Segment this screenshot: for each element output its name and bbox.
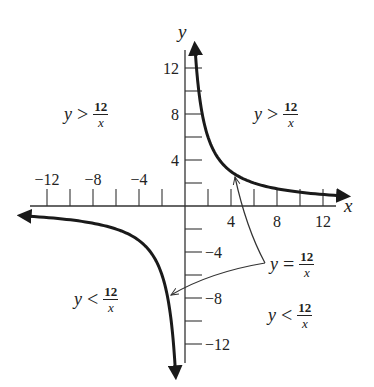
denominator: x (98, 115, 104, 129)
y-tick-label: −12 (205, 336, 230, 353)
lhs: y (254, 104, 262, 125)
curve-equation-label: y = 12x (270, 250, 314, 279)
fraction: 12x (283, 100, 298, 129)
y-tick-label: 4 (171, 152, 179, 169)
denominator: x (288, 115, 294, 129)
relation: < (87, 288, 98, 311)
fraction: 12x (93, 100, 108, 129)
x-axis-label: x (343, 195, 353, 216)
annotation-lower-right: y < 12x (268, 301, 312, 330)
numerator: 12 (93, 100, 108, 115)
y-tick-label: 8 (171, 106, 179, 123)
pointer-to-upper-branch (235, 177, 265, 263)
relation: > (267, 103, 278, 126)
hyperbola-graph: −12−8−448121284−4−8−12 x y (0, 0, 374, 387)
lhs: y (270, 254, 278, 275)
x-tick-label: 4 (227, 213, 235, 230)
numerator: 12 (297, 301, 312, 316)
denominator: x (304, 265, 310, 279)
annotation-lower-left: y < 12x (74, 285, 118, 314)
fraction: 12x (297, 301, 312, 330)
fraction: 12x (299, 250, 314, 279)
y-tick-label: −8 (205, 290, 222, 307)
numerator: 12 (103, 285, 118, 300)
y-axis-label: y (176, 21, 187, 42)
numerator: 12 (299, 250, 314, 265)
relation: < (281, 304, 292, 327)
annotation-upper-right: y > 12x (254, 100, 298, 129)
y-tick-label: 12 (163, 60, 179, 77)
relation: = (283, 253, 294, 276)
y-tick-label: −4 (205, 244, 222, 261)
x-tick-label: −4 (130, 171, 147, 188)
denominator: x (108, 300, 114, 314)
numerator: 12 (283, 100, 298, 115)
x-tick-label: −12 (34, 171, 59, 188)
lhs: y (268, 305, 276, 326)
x-tick-label: −8 (84, 171, 101, 188)
annotation-upper-left: y > 12x (64, 100, 108, 129)
denominator: x (302, 316, 308, 330)
relation: > (77, 103, 88, 126)
lhs: y (74, 289, 82, 310)
lhs: y (64, 104, 72, 125)
fraction: 12x (103, 285, 118, 314)
x-tick-label: 12 (315, 213, 331, 230)
x-tick-label: 8 (273, 213, 281, 230)
